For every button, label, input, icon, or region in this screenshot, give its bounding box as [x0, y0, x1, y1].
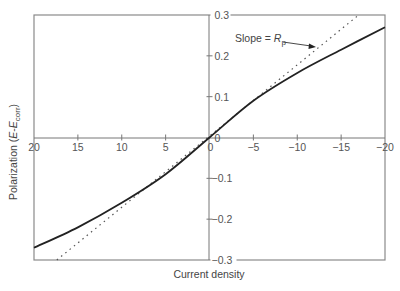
x-tick-label: −5	[247, 141, 259, 153]
slope-annotation: Slope = Rp	[235, 32, 286, 47]
x-tick-label: 0	[208, 141, 214, 153]
y-tick-label: −0.3	[212, 254, 233, 266]
x-tick-label: −10	[288, 141, 306, 153]
x-tick-label: −20	[376, 141, 394, 153]
y-tick-label: 0.2	[215, 50, 230, 62]
x-tick-label: 15	[72, 141, 84, 153]
y-axis-label: Polarization (E-Ecorr)	[7, 104, 22, 200]
y-tick-label: −0.2	[212, 213, 233, 225]
x-axis-label: Current density	[173, 268, 245, 280]
x-tick-label: 20	[28, 141, 40, 153]
polarization-chart: 20151050−5−10−15−20 0.30.20.10−0.1−0.2−0…	[0, 0, 400, 291]
y-tick-label: 0.1	[215, 91, 230, 103]
x-tick-label: −15	[332, 141, 350, 153]
x-tick-label: 5	[163, 141, 169, 153]
y-tick-label: −0.1	[212, 172, 233, 184]
y-tick-label: 0.3	[215, 9, 230, 21]
annotation-arrow	[283, 42, 311, 46]
x-tick-label: 10	[116, 141, 128, 153]
arrowhead-icon	[309, 44, 317, 50]
